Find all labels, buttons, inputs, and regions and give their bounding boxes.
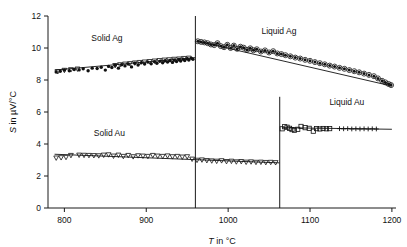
phase-divider-lines <box>195 16 279 208</box>
data-point <box>353 70 356 73</box>
data-point <box>214 159 219 163</box>
data-point <box>101 153 106 157</box>
data-point <box>349 127 354 132</box>
data-point <box>191 58 194 61</box>
y-tick-label: 10 <box>32 43 42 53</box>
y-tick-label: 12 <box>32 11 42 21</box>
x-tick-label: 900 <box>139 215 153 225</box>
data-point <box>338 66 341 69</box>
data-point <box>110 66 113 69</box>
series-liquid-au <box>280 124 332 133</box>
data-point <box>232 44 235 47</box>
data-point <box>263 49 266 52</box>
data-point <box>234 160 239 164</box>
data-point <box>272 50 275 53</box>
series-annotation: Liquid Ag <box>261 26 296 36</box>
data-point <box>255 48 258 51</box>
data-point <box>328 64 331 67</box>
y-tick-label: 8 <box>36 75 41 85</box>
data-point <box>64 155 69 159</box>
data-point <box>304 58 307 61</box>
y-tick-label: 2 <box>36 171 41 181</box>
data-point <box>370 126 375 131</box>
data-point <box>104 68 107 71</box>
y-tick-labels: 024681012 <box>32 11 42 213</box>
data-point <box>69 153 74 157</box>
series-annotation: Solid Au <box>94 128 125 138</box>
data-point <box>86 69 89 72</box>
x-tick-label: 1100 <box>301 215 320 225</box>
data-point <box>348 69 351 72</box>
data-point <box>363 72 366 75</box>
data-point <box>374 127 379 132</box>
data-point <box>341 126 346 131</box>
data-point <box>353 126 358 131</box>
x-tick-label: 1200 <box>382 215 401 225</box>
data-point <box>343 67 346 70</box>
data-point <box>259 50 262 53</box>
data-point <box>204 159 209 163</box>
data-point <box>313 61 316 64</box>
data-point <box>276 52 279 55</box>
data-point <box>100 66 103 69</box>
data-point <box>165 154 170 158</box>
data-point <box>309 59 312 62</box>
data-point <box>376 77 379 80</box>
y-tick-label: 4 <box>36 139 41 149</box>
data-point <box>362 126 367 131</box>
data-point <box>358 71 361 74</box>
data-point <box>185 155 190 159</box>
data-point <box>367 73 370 76</box>
x-tick-labels: 800900100011001200 <box>57 215 401 225</box>
series-liquid-au-plus <box>337 126 379 131</box>
data-point <box>175 154 180 158</box>
data-point <box>318 62 321 65</box>
fit-line <box>198 41 392 86</box>
data-point <box>284 54 287 57</box>
data-point <box>155 62 158 65</box>
y-tick-label: 6 <box>36 107 41 117</box>
data-point <box>372 75 375 78</box>
x-tick-label: 800 <box>57 215 71 225</box>
axis-titles: T in °CS in µV/°C <box>8 91 236 246</box>
data-point <box>107 65 110 68</box>
data-point <box>95 67 98 70</box>
y-tick-label: 0 <box>36 203 41 213</box>
data-point <box>289 55 292 58</box>
chart-canvas: 800900100011001200 024681012 Solid AgLiq… <box>0 0 407 247</box>
data-point <box>294 56 297 59</box>
data-point <box>54 156 59 160</box>
data-point <box>280 53 283 56</box>
data-point <box>226 43 229 46</box>
data-point <box>82 67 85 70</box>
x-tick-label: 1000 <box>219 215 238 225</box>
y-axis-title: S in µV/°C <box>8 91 18 133</box>
data-point <box>333 65 336 68</box>
data-point <box>323 63 326 66</box>
data-point <box>366 127 371 132</box>
data-point <box>299 57 302 60</box>
data-point <box>268 51 271 54</box>
data-point <box>209 159 214 163</box>
data-point <box>91 66 94 69</box>
data-point <box>358 127 363 132</box>
data-point <box>59 156 64 160</box>
data-point <box>390 84 393 87</box>
x-axis-title: T in °C <box>208 236 236 246</box>
axis-lines <box>48 16 396 208</box>
series-annotation: Liquid Au <box>329 97 364 107</box>
data-point <box>244 160 249 164</box>
data-point <box>345 126 350 131</box>
data-point <box>337 126 342 131</box>
fit-line <box>55 154 280 163</box>
seebeck-coefficient-chart: 800900100011001200 024681012 Solid AgLiq… <box>0 0 407 247</box>
series-annotation: Solid Ag <box>91 33 122 43</box>
data-point <box>224 160 229 164</box>
data-point <box>150 153 155 157</box>
